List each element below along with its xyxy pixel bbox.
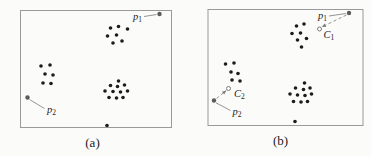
bottom-right-cluster-dot (109, 84, 113, 88)
p2-leader-line (30, 100, 45, 109)
top-right-cluster-dot (111, 41, 115, 45)
p1-leader-line (329, 14, 346, 17)
top-right-cluster-dot (120, 39, 124, 43)
bottom-right-cluster-dot (299, 100, 303, 104)
top-right-cluster-dot (300, 45, 304, 49)
C2-label: C2 (234, 88, 245, 101)
top-right-cluster-dot (115, 33, 119, 37)
C1-label: C1 (324, 29, 335, 42)
figure-canvas: p1p2 p1p2C1C2 (a) (b) (0, 0, 371, 156)
top-right-cluster-dot (290, 32, 294, 36)
bottom-right-cluster-dot (303, 81, 307, 85)
left-cluster-dot (236, 72, 240, 76)
top-right-cluster-dot (295, 24, 299, 28)
left-cluster-dot (229, 70, 233, 74)
p1-point (347, 11, 351, 15)
p1-label: p1 (132, 11, 142, 24)
panel-b-box (208, 10, 363, 126)
bottom-right-cluster-dot (121, 96, 125, 100)
p2-leader-line (216, 103, 231, 111)
p2-label: p2 (46, 104, 56, 117)
panel-a: p1p2 (21, 11, 172, 128)
left-cluster-dot (51, 73, 55, 77)
bottom-right-cluster-dot (302, 88, 306, 92)
left-cluster-dot (49, 82, 53, 86)
top-right-cluster-dot (302, 22, 306, 26)
left-cluster-dot (48, 63, 52, 67)
bottom-right-cluster-dot (115, 96, 119, 100)
top-right-cluster-dot (299, 31, 303, 35)
outlier-dot (293, 120, 297, 124)
bottom-right-cluster-dot (288, 92, 292, 96)
left-cluster-dot (224, 62, 228, 66)
C1-center-marker (318, 27, 322, 31)
bottom-right-cluster-dot (119, 90, 123, 94)
top-right-cluster-dot (296, 38, 300, 42)
p1-leader-line (144, 15, 157, 17)
top-right-cluster-dot (109, 26, 113, 30)
left-cluster-dot (232, 61, 236, 65)
left-cluster-dot (230, 78, 234, 82)
outlier-dot (105, 124, 109, 128)
bottom-right-cluster-dot (306, 100, 310, 104)
bottom-right-cluster-dot (294, 86, 298, 90)
bottom-right-cluster-dot (117, 79, 121, 83)
bottom-right-cluster-dot (296, 93, 300, 97)
bottom-right-cluster-dot (103, 89, 107, 93)
top-right-cluster-dot (106, 34, 110, 38)
bottom-right-cluster-dot (111, 90, 115, 94)
figure-clustering-two-panels: p1p2 p1p2C1C2 (a) (b) (0, 0, 371, 156)
p2-label: p2 (232, 106, 242, 119)
left-cluster-dot (39, 64, 43, 68)
top-right-cluster-dot (117, 25, 121, 29)
bottom-right-cluster-dot (107, 96, 111, 100)
panel-a-caption: (a) (85, 135, 99, 150)
bottom-right-cluster-dot (123, 83, 127, 87)
panel-a-box (21, 11, 172, 128)
bottom-right-cluster-dot (126, 89, 130, 93)
panel-b-caption: (b) (273, 133, 288, 148)
left-cluster-dot (41, 81, 45, 85)
top-right-cluster-dot (126, 27, 130, 31)
bottom-right-cluster-dot (116, 85, 120, 89)
left-cluster-dot (238, 79, 242, 83)
bottom-right-cluster-dot (292, 100, 296, 104)
bottom-right-cluster-dot (310, 92, 314, 96)
p2-point (25, 95, 29, 99)
bottom-right-cluster-dot (308, 86, 312, 90)
p1-label: p1 (317, 10, 327, 23)
top-right-cluster-dot (305, 37, 309, 41)
p2-point (212, 98, 216, 102)
bottom-right-cluster-dot (303, 94, 307, 98)
panel-b: p1p2C1C2 (208, 10, 363, 126)
C2-center-marker (227, 87, 231, 91)
p1-point (157, 12, 161, 16)
left-cluster-dot (43, 72, 47, 76)
